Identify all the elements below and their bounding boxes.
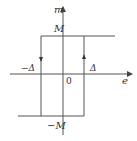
- origin-label: 0: [66, 76, 72, 86]
- bottom-level-label: −M: [47, 120, 66, 131]
- up-arrow-icon: [82, 54, 86, 59]
- top-level-label: M: [53, 23, 65, 34]
- left-threshold-label: −Δ: [21, 63, 35, 73]
- hysteresis-diagram: m e 0 M −M −Δ Δ: [0, 0, 137, 141]
- down-arrow-icon: [39, 57, 43, 62]
- y-axis-label: m: [54, 4, 63, 15]
- right-threshold-label: Δ: [89, 63, 97, 73]
- x-axis-label: e: [122, 75, 128, 86]
